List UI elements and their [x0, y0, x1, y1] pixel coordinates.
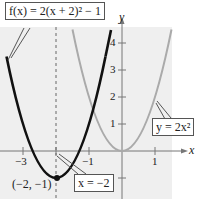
f-equation-label: f(x) = 2(x + 2)² − 1 — [5, 2, 105, 20]
x-axis-label: x — [189, 143, 194, 158]
x-tick-label-neg1: −1 — [82, 155, 94, 167]
vertex-point — [54, 175, 60, 181]
y-tick-label-4: 4 — [110, 36, 116, 48]
x-axis-arrow-icon — [181, 149, 188, 154]
chart-plot — [0, 0, 198, 199]
vertex-label: (−2, −1) — [12, 177, 52, 192]
x-tick-label-1: 1 — [152, 155, 158, 167]
y-tick-label-2: 2 — [110, 90, 116, 102]
vline-equation-label: x = −2 — [74, 174, 114, 192]
x-tick-label-neg3: −3 — [15, 155, 27, 167]
y-axis-label: y — [119, 10, 124, 25]
y-tick-label-1: 1 — [110, 117, 116, 129]
y-tick-label-3: 3 — [110, 63, 116, 75]
g-equation-label: y = 2x² — [152, 118, 194, 136]
